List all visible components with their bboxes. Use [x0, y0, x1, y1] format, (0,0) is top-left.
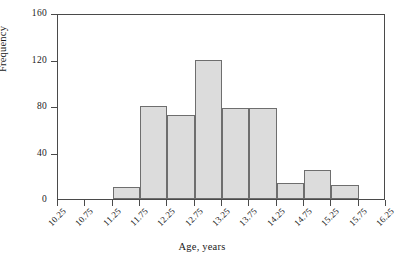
y-axis-tick — [51, 107, 57, 108]
x-axis-tick-label: 14.25 — [258, 206, 286, 234]
x-axis-tick — [303, 200, 304, 206]
x-axis-tick-label: 10.75 — [67, 206, 95, 234]
y-axis-tick — [51, 61, 57, 62]
y-axis-tick — [51, 14, 57, 15]
histogram-bar — [331, 185, 358, 199]
histogram-bar — [140, 106, 167, 199]
y-axis-tick-label: 120 — [7, 55, 47, 65]
x-axis-tick — [358, 200, 359, 206]
histogram-bar — [249, 108, 276, 199]
x-axis-tick-label: 15.75 — [340, 206, 368, 234]
x-axis-tick — [330, 200, 331, 206]
histogram-bar — [167, 115, 194, 199]
x-axis-tick — [194, 200, 195, 206]
x-axis-title: Age, years — [0, 241, 404, 252]
histogram-bar — [277, 183, 304, 199]
x-axis-tick-label: 10.25 — [40, 206, 68, 234]
x-axis-tick — [139, 200, 140, 206]
x-axis-tick — [248, 200, 249, 206]
x-axis-tick — [221, 200, 222, 206]
x-axis-tick-label: 15.25 — [313, 206, 341, 234]
x-axis-tick — [112, 200, 113, 206]
y-axis-tick — [51, 154, 57, 155]
histogram-bar — [222, 108, 249, 199]
histogram-bar — [113, 187, 140, 199]
y-axis-tick-label: 0 — [7, 194, 47, 204]
x-axis-tick-label: 13.25 — [204, 206, 232, 234]
bars-group — [58, 15, 384, 199]
x-axis-tick-label: 12.25 — [149, 206, 177, 234]
y-axis-tick-label: 40 — [7, 148, 47, 158]
histogram-figure: Frequency 04080120160 10.2510.7511.2511.… — [0, 0, 404, 262]
x-axis-tick-label: 11.25 — [94, 206, 122, 234]
histogram-bar — [304, 170, 331, 199]
x-axis-tick — [276, 200, 277, 206]
x-axis-tick — [385, 200, 386, 206]
y-axis-title: Frequency — [0, 26, 8, 72]
x-axis-tick — [57, 200, 58, 206]
x-axis-tick-label: 14.75 — [286, 206, 314, 234]
x-axis-tick-label: 16.25 — [368, 206, 396, 234]
plot-area — [57, 14, 385, 200]
y-axis-tick-label: 80 — [7, 101, 47, 111]
y-axis-tick-label: 160 — [7, 8, 47, 18]
x-axis-tick — [84, 200, 85, 206]
histogram-bar — [195, 60, 222, 200]
x-axis-tick-label: 11.75 — [122, 206, 150, 234]
x-axis-tick-label: 12.75 — [176, 206, 204, 234]
x-axis-tick-label: 13.75 — [231, 206, 259, 234]
x-axis-tick — [166, 200, 167, 206]
